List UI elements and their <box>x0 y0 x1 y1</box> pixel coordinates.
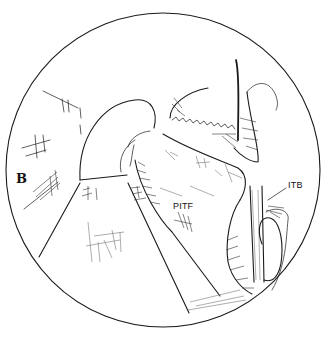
label-pitf: PITF <box>173 201 193 211</box>
serrated-structure <box>170 60 278 162</box>
left-hatch-marks <box>22 91 81 209</box>
pitf-region <box>135 134 245 296</box>
itb-structure <box>188 186 288 310</box>
panel-label: B <box>16 171 27 186</box>
illustration-canvas <box>0 0 325 339</box>
label-itb: ITB <box>288 180 303 190</box>
